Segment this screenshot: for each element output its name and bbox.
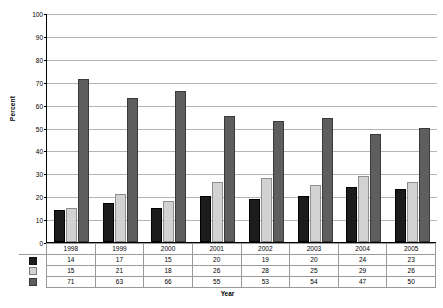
bar (370, 134, 381, 242)
y-axis-tick-label: 20 (36, 194, 43, 201)
bar-group (96, 13, 145, 242)
bar (310, 185, 321, 242)
bar (200, 196, 211, 242)
table-cell-value: 47 (338, 277, 387, 288)
bar (224, 116, 235, 242)
table-row: 1417152019202423 (19, 255, 436, 266)
table-cell-year: 2004 (338, 244, 387, 255)
y-axis-tick-label: 30 (36, 171, 43, 178)
table-cell-year: 1998 (47, 244, 96, 255)
x-axis-title: Year (19, 290, 436, 297)
bar-group (193, 13, 242, 242)
table-cell-value: 28 (241, 266, 290, 277)
bar (298, 196, 309, 242)
bar-group (242, 13, 291, 242)
bar (115, 194, 126, 242)
legend-cell (19, 266, 47, 277)
table-cell-value: 15 (47, 266, 96, 277)
bar-group (388, 13, 437, 242)
table-cell-value: 50 (387, 277, 436, 288)
bar-group (340, 13, 389, 242)
bar-group (47, 13, 96, 242)
data-table: 1998199920002001200220032004200514171520… (19, 243, 436, 288)
bar (54, 210, 65, 242)
table-cell-value: 54 (290, 277, 339, 288)
bar (103, 203, 114, 242)
y-axis-tick-label: 90 (36, 33, 43, 40)
data-table-body: 1998199920002001200220032004200514171520… (19, 244, 436, 288)
legend-swatch-icon (29, 278, 37, 286)
bar-group (145, 13, 194, 242)
bar (212, 182, 223, 242)
bar (151, 208, 162, 242)
table-row: 7163665553544750 (19, 277, 436, 288)
y-axis-tick-label: 70 (36, 79, 43, 86)
table-cell-value: 25 (290, 266, 339, 277)
table-cell-value: 66 (144, 277, 193, 288)
bar (175, 91, 186, 242)
table-cell-value: 15 (144, 255, 193, 266)
table-cell-year: 1999 (95, 244, 144, 255)
y-axis-tick-label: 80 (36, 56, 43, 63)
bar (66, 208, 77, 242)
bar (249, 199, 260, 243)
bar-group (291, 13, 340, 242)
plot-area: 0102030405060708090100 (46, 14, 436, 243)
bar (346, 187, 357, 242)
table-cell-value: 53 (241, 277, 290, 288)
table-cell-year: 2002 (241, 244, 290, 255)
bar (261, 178, 272, 242)
table-cell-value: 63 (95, 277, 144, 288)
bar (322, 118, 333, 242)
table-cell-year: 2005 (387, 244, 436, 255)
bars-layer (47, 13, 437, 242)
table-cell-value: 71 (47, 277, 96, 288)
table-row: 1521182628252926 (19, 266, 436, 277)
bar (407, 182, 418, 242)
legend-cell (19, 255, 47, 266)
legend-swatch-icon (29, 257, 37, 265)
table-cell-year: 2001 (192, 244, 241, 255)
table-cell-value: 17 (95, 255, 144, 266)
table-cell-value: 23 (387, 255, 436, 266)
y-axis-tick-label: 100 (32, 11, 43, 18)
bar (163, 201, 174, 242)
y-axis-tick-label: 40 (36, 148, 43, 155)
bar (395, 189, 406, 242)
table-cell-value: 18 (144, 266, 193, 277)
y-axis-title: Percent (9, 79, 16, 139)
table-cell-value: 14 (47, 255, 96, 266)
y-axis-tick-label: 60 (36, 102, 43, 109)
bar (127, 98, 138, 242)
table-cell-value: 55 (192, 277, 241, 288)
table-cell-value: 24 (338, 255, 387, 266)
y-axis-tick-label: 10 (36, 217, 43, 224)
table-cell-value: 20 (192, 255, 241, 266)
table-cell-value: 21 (95, 266, 144, 277)
bar (358, 176, 369, 242)
bar-chart: Percent 0102030405060708090100 199819992… (0, 0, 443, 308)
table-cell-value: 26 (192, 266, 241, 277)
bar (78, 79, 89, 242)
bar (273, 121, 284, 242)
legend-swatch-icon (29, 267, 37, 275)
y-axis-tick-label: 50 (36, 125, 43, 132)
table-cell-year: 2000 (144, 244, 193, 255)
table-cell-value: 29 (338, 266, 387, 277)
table-row-years: 19981999200020012002200320042005 (19, 244, 436, 255)
table-cell-value: 19 (241, 255, 290, 266)
bar (419, 128, 430, 243)
table-cell-value: 26 (387, 266, 436, 277)
table-cell-year: 2003 (290, 244, 339, 255)
table-cell-value: 20 (290, 255, 339, 266)
legend-cell-empty (19, 244, 47, 255)
legend-cell (19, 277, 47, 288)
